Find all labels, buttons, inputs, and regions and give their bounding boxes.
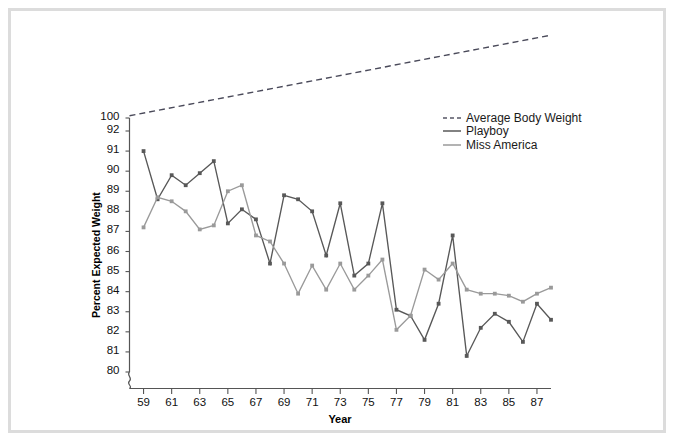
data-point: [254, 217, 258, 221]
y-axis-tick-label: 91: [86, 143, 120, 155]
data-point: [549, 286, 553, 290]
x-axis-tick-label: 83: [469, 396, 493, 408]
data-point: [310, 264, 314, 268]
data-point: [282, 262, 286, 266]
series-miss-america: [142, 183, 553, 331]
x-axis-title: Year: [280, 413, 400, 425]
data-point: [479, 292, 483, 296]
y-axis-tick-label: 86: [86, 244, 120, 256]
data-point: [493, 312, 497, 316]
data-point: [226, 221, 230, 225]
legend-marks: [443, 118, 461, 145]
data-point: [226, 189, 230, 193]
data-point: [170, 173, 174, 177]
data-point: [451, 262, 455, 266]
x-axis-ticks: [144, 389, 537, 395]
data-point: [437, 302, 441, 306]
data-point: [324, 254, 328, 258]
data-point: [198, 171, 202, 175]
data-point: [240, 183, 244, 187]
y-axis-tick-label: 100: [86, 110, 120, 122]
data-point: [268, 240, 272, 244]
x-axis-tick-label: 75: [356, 396, 380, 408]
x-axis-tick-label: 63: [188, 396, 212, 408]
x-axis-tick-label: 79: [413, 396, 437, 408]
data-point: [507, 320, 511, 324]
data-point: [479, 326, 483, 330]
data-point: [296, 292, 300, 296]
data-point: [324, 288, 328, 292]
data-point: [338, 201, 342, 205]
data-point: [395, 308, 399, 312]
legend-label-average-body-weight: Average Body Weight: [466, 111, 582, 125]
y-axis-tick-label: 81: [86, 344, 120, 356]
x-axis-tick-label: 73: [328, 396, 352, 408]
data-point: [310, 209, 314, 213]
data-point: [198, 228, 202, 232]
data-point: [142, 149, 146, 153]
data-point: [535, 302, 539, 306]
data-point: [521, 340, 525, 344]
legend-label-playboy: Playboy: [466, 124, 509, 138]
series-playboy: [142, 149, 553, 358]
axis-lines: [128, 118, 551, 389]
data-point: [465, 354, 469, 358]
y-axis-tick-label: 88: [86, 203, 120, 215]
x-axis-tick-label: 59: [132, 396, 156, 408]
data-point: [240, 207, 244, 211]
x-axis-tick-label: 69: [272, 396, 296, 408]
data-point: [507, 294, 511, 298]
data-point: [338, 262, 342, 266]
x-axis-tick-label: 71: [300, 396, 324, 408]
data-point: [212, 223, 216, 227]
y-axis-tick-label: 80: [86, 364, 120, 376]
x-axis-tick-label: 61: [160, 396, 184, 408]
y-axis-tick-label: 82: [86, 324, 120, 336]
data-point: [170, 199, 174, 203]
x-axis-tick-label: 87: [525, 396, 549, 408]
y-axis-tick-label: 87: [86, 223, 120, 235]
data-point: [352, 288, 356, 292]
data-point: [395, 328, 399, 332]
data-point: [521, 300, 525, 304]
data-point: [381, 201, 385, 205]
legend-label-miss-america: Miss America: [466, 138, 537, 152]
data-point: [535, 292, 539, 296]
data-point: [423, 338, 427, 342]
data-point: [184, 209, 188, 213]
y-axis-tick-label: 90: [86, 163, 120, 175]
x-axis-tick-label: 65: [216, 396, 240, 408]
data-point: [549, 318, 553, 322]
data-point: [409, 314, 413, 318]
data-point: [282, 193, 286, 197]
y-axis-tick-label: 84: [86, 284, 120, 296]
series-average-body-weight: [130, 35, 552, 116]
data-point: [142, 226, 146, 230]
data-point: [212, 159, 216, 163]
data-point: [423, 268, 427, 272]
data-point: [268, 262, 272, 266]
data-point: [465, 288, 469, 292]
data-point: [381, 258, 385, 262]
data-point: [451, 234, 455, 238]
y-axis-tick-label: 85: [86, 264, 120, 276]
data-point: [254, 234, 258, 238]
data-point: [352, 274, 356, 278]
x-axis-tick-label: 77: [384, 396, 408, 408]
data-point: [184, 183, 188, 187]
y-axis-tick-label: 83: [86, 304, 120, 316]
data-series-layer: [130, 35, 553, 358]
data-point: [296, 197, 300, 201]
data-point: [493, 292, 497, 296]
data-point: [156, 195, 160, 199]
y-axis-tick-label: 92: [86, 123, 120, 135]
y-axis-tick-label: 89: [86, 183, 120, 195]
data-point: [366, 262, 370, 266]
data-point: [366, 274, 370, 278]
data-point: [437, 278, 441, 282]
x-axis-tick-label: 81: [441, 396, 465, 408]
x-axis-tick-label: 67: [244, 396, 268, 408]
x-axis-tick-label: 85: [497, 396, 521, 408]
